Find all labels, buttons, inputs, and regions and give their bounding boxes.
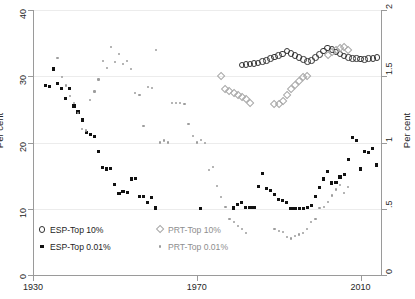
data-point xyxy=(109,167,112,170)
data-point xyxy=(150,196,153,199)
data-point xyxy=(179,102,181,104)
legend-label: ESP-Top 10% xyxy=(48,225,104,235)
y-tick-label-left: 30 xyxy=(18,75,28,85)
y-tick-right xyxy=(382,143,387,144)
legend-label: PRT-Top 10% xyxy=(166,225,221,235)
data-point xyxy=(64,97,67,100)
data-point xyxy=(106,67,108,69)
data-point xyxy=(65,84,67,86)
data-point xyxy=(142,125,144,127)
y-tick-right xyxy=(382,76,387,77)
legend-marker-open-diamond xyxy=(154,224,166,236)
data-point xyxy=(44,84,47,87)
data-point xyxy=(151,87,153,89)
legend-item-prt-top-001: PRT-Top 0.01% xyxy=(154,239,228,254)
data-point xyxy=(293,207,296,210)
data-point xyxy=(97,78,99,80)
data-point xyxy=(363,150,366,153)
data-point xyxy=(212,166,214,168)
legend-marker-small-dot xyxy=(154,241,166,253)
data-point xyxy=(60,87,63,90)
data-point xyxy=(72,104,75,107)
data-point xyxy=(81,128,83,130)
data-point xyxy=(122,63,124,65)
data-point xyxy=(52,67,55,70)
legend-marker-filled-square xyxy=(36,241,48,253)
data-point xyxy=(338,175,341,178)
data-point xyxy=(110,46,112,48)
data-point xyxy=(200,139,202,141)
data-point xyxy=(199,207,202,210)
data-point xyxy=(347,158,350,161)
data-point xyxy=(244,206,247,209)
data-point xyxy=(113,183,116,186)
data-point xyxy=(306,228,308,230)
data-point xyxy=(290,237,292,239)
data-point xyxy=(216,185,218,187)
data-point xyxy=(228,218,230,220)
y-tick-label-right: 1.5 xyxy=(384,63,394,76)
data-point xyxy=(310,204,313,207)
data-point xyxy=(48,85,51,88)
data-point xyxy=(282,231,284,233)
data-point xyxy=(81,118,84,121)
x-tick-label: 1970 xyxy=(177,282,217,292)
data-point xyxy=(171,102,173,104)
data-point xyxy=(322,177,325,180)
y-tick-right xyxy=(382,209,387,210)
data-point xyxy=(302,207,305,210)
data-point xyxy=(97,150,100,153)
data-point xyxy=(261,172,264,175)
data-point xyxy=(77,112,79,114)
data-point xyxy=(89,133,92,136)
data-point xyxy=(118,53,120,55)
legend-item-esp-top-001: ESP-Top 0.01% xyxy=(36,239,111,254)
data-point xyxy=(56,57,58,59)
data-point xyxy=(134,177,137,180)
y-tick-label-right: 0 xyxy=(384,269,394,274)
data-point xyxy=(224,206,226,208)
data-point xyxy=(134,92,136,94)
data-point xyxy=(330,181,333,184)
data-point xyxy=(343,192,345,194)
data-point xyxy=(159,141,161,143)
legend-item-prt-top-10: PRT-Top 10% xyxy=(154,222,221,237)
data-point xyxy=(236,203,239,206)
data-point xyxy=(375,163,378,166)
chart-legend: ESP-Top 10% ESP-Top 0.01% PRT-Top 10% PR… xyxy=(36,222,251,256)
data-point xyxy=(56,82,59,85)
x-tick-label: 2010 xyxy=(341,282,381,292)
x-tick xyxy=(361,276,362,281)
y-tick-label-right: 1 xyxy=(384,136,394,141)
data-point xyxy=(278,230,280,232)
y-tick-label-right: .5 xyxy=(384,200,394,208)
data-point xyxy=(265,187,268,190)
data-point xyxy=(114,61,116,63)
data-point xyxy=(273,228,275,230)
data-point xyxy=(371,147,374,150)
data-point xyxy=(273,193,276,196)
data-point xyxy=(121,190,124,193)
data-point xyxy=(73,102,75,104)
y-axis-left-title: Per cent xyxy=(0,113,5,148)
data-point xyxy=(314,195,317,198)
y-tick-left xyxy=(28,76,33,77)
data-point xyxy=(298,233,300,235)
data-point xyxy=(89,99,91,101)
data-point xyxy=(155,49,157,51)
data-point xyxy=(347,186,349,188)
data-point xyxy=(277,198,280,201)
data-point xyxy=(69,95,71,97)
data-point xyxy=(220,196,222,198)
x-tick xyxy=(33,276,34,281)
data-point xyxy=(248,206,251,209)
data-point xyxy=(339,184,341,186)
data-point xyxy=(130,68,132,70)
data-point xyxy=(61,76,63,78)
data-point xyxy=(102,60,104,62)
data-point xyxy=(183,103,185,105)
data-point xyxy=(294,235,296,237)
y-tick-label-left: 10 xyxy=(18,208,28,218)
data-point xyxy=(93,90,95,92)
data-point xyxy=(204,142,206,144)
